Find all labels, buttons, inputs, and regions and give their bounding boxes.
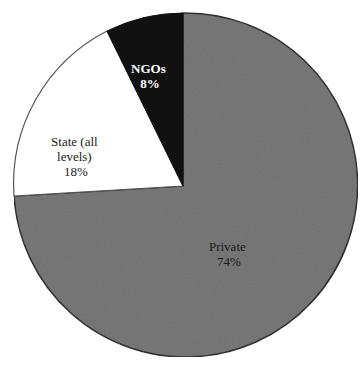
pie-chart: NGOs 8% State (all levels) 18% Private 7…	[0, 0, 360, 367]
